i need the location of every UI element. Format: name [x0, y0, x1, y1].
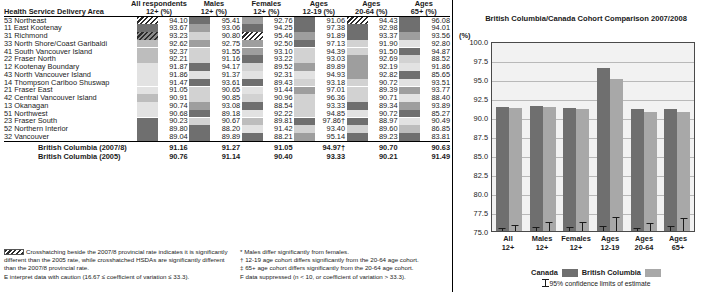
rate-swatch: [294, 24, 315, 32]
rate-swatch: [242, 24, 263, 32]
rate-swatch: [242, 118, 263, 126]
x-axis-label-4: Ages20-64: [627, 234, 661, 253]
total-row-label: British Columbia (2007/8): [4, 141, 130, 151]
table-cell: 88.21: [240, 133, 292, 141]
x-axis-label-line1: Males: [525, 234, 559, 243]
total-cell: 91.49: [398, 152, 451, 161]
table-header-row: Health Service Delivery Area All respond…: [4, 0, 450, 16]
confidence-interval-bar: [499, 228, 506, 232]
rate-swatch: [242, 125, 263, 133]
rate-swatch: [399, 125, 420, 133]
x-axis-label-5: Ages65+: [661, 234, 695, 253]
bar-canada: [530, 106, 543, 231]
y-axis-tick-label: 82.5: [458, 171, 488, 180]
footnote-e-note: E interpret data with caution (16.67 ≤ c…: [4, 273, 232, 281]
y-axis-tick-label: 95.0: [458, 76, 488, 85]
rate-swatch: [347, 94, 368, 102]
confidence-interval-bar: [680, 218, 687, 232]
bar-british-columbia: [576, 109, 589, 231]
footnotes-right: * Males differ significantly from female…: [240, 248, 448, 281]
rate-swatch: [399, 87, 420, 95]
column-header-females: Females 12+ (%): [240, 0, 292, 16]
column-header-ages-20-64-line2: 20-64 (%): [345, 8, 397, 16]
rate-swatch: [294, 55, 315, 63]
rate-swatch: [189, 94, 210, 102]
rate-swatch: [399, 24, 420, 32]
x-axis-label-3: Ages12-19: [593, 234, 627, 253]
confidence-interval-bar: [600, 226, 607, 232]
y-axis-tick-label: 80.0: [458, 190, 488, 199]
rate-swatch: [137, 55, 158, 63]
total-cell: 90.76: [130, 152, 187, 161]
rate-swatch: [399, 48, 420, 56]
rate-swatch: [137, 133, 158, 141]
bar-group: [660, 43, 694, 231]
y-axis-tick-label: 77.5: [458, 209, 488, 218]
rate-swatch: [294, 118, 315, 126]
bars-container: [492, 43, 694, 231]
bar-group: [627, 43, 661, 231]
rate-swatch: [137, 110, 158, 118]
y-axis-tick-label: 87.5: [458, 133, 488, 142]
column-header-area: Health Service Delivery Area: [4, 0, 130, 16]
rate-swatch: [189, 71, 210, 79]
bar-group: [593, 43, 627, 231]
rate-swatch: [399, 55, 420, 63]
total-cell: 91.14: [188, 152, 240, 161]
table-cell: 89.04: [130, 133, 187, 141]
rate-swatch: [242, 133, 263, 141]
total-value: 90.70: [371, 144, 398, 152]
y-axis-tick-label: 75.0: [458, 228, 488, 237]
rate-value: 89.04: [161, 133, 188, 141]
rate-swatch: [189, 87, 210, 95]
table-body: 53 Northeast94.1095.4192.7691.0694.4396.…: [4, 16, 450, 161]
table-total-row: British Columbia (2005)90.7691.1490.4093…: [4, 152, 450, 161]
total-cell: 94.97†: [293, 141, 345, 151]
footnote-suppressed: F data suppressed (n < 10, or coefficien…: [240, 273, 448, 281]
rate-swatch: [294, 133, 315, 141]
confidence-interval-bar: [634, 228, 641, 232]
rate-swatch: [189, 40, 210, 48]
x-axis-label-line2: 20-64: [627, 243, 661, 252]
rate-swatch: [294, 40, 315, 48]
total-value: 91.05: [266, 144, 293, 152]
y-axis-tick-label: 97.5: [458, 57, 488, 66]
rate-swatch: [242, 71, 263, 79]
legend-label-bc: British Columbia: [582, 268, 641, 277]
total-cell: 93.33: [293, 152, 345, 161]
table-cell: 89.89: [188, 133, 240, 141]
chart-legend: Canada British Columbia 95% confidence l…: [491, 268, 701, 287]
legend-label-canada: Canada: [531, 268, 558, 277]
x-axis-label-line1: Ages: [593, 234, 627, 243]
rate-swatch: [242, 94, 263, 102]
column-header-ages-20-64: Ages 20-64 (%): [345, 0, 397, 16]
rate-swatch: [189, 110, 210, 118]
rate-swatch: [294, 17, 315, 25]
rate-swatch: [347, 125, 368, 133]
legend-swatch-canada: [562, 269, 578, 277]
bar-british-columbia: [677, 112, 690, 231]
total-value: 90.40: [266, 153, 293, 161]
y-axis-tick-label: 90.0: [458, 114, 488, 123]
total-value: 91.27: [213, 144, 240, 152]
rate-swatch: [294, 63, 315, 71]
row-area-label: 32 Vancouver: [4, 133, 130, 141]
confidence-interval-bar: [546, 222, 553, 232]
bar-canada: [664, 109, 677, 231]
rate-swatch: [347, 55, 368, 63]
rate-swatch: [137, 118, 158, 126]
rate-swatch: [294, 79, 315, 87]
cohort-comparison-chart: British Columbia/Canada Cohort Compariso…: [452, 0, 706, 292]
footnote-crosshatch: Crosshatching beside the 2007/8 provinci…: [4, 248, 232, 273]
legend-ci-note: 95% confidence limits of estimate: [550, 280, 651, 287]
rate-swatch: [189, 133, 210, 141]
rate-swatch: [399, 17, 420, 25]
rate-swatch: [137, 48, 158, 56]
chart-subtitle: 2007/2008: [651, 14, 687, 23]
confidence-interval-bar: [647, 223, 654, 232]
rate-swatch: [399, 32, 420, 40]
x-axis-label-line1: Females: [559, 234, 593, 243]
total-cell: 91.27: [188, 141, 240, 151]
rate-swatch: [189, 79, 210, 87]
screenshot-root: Health Service Delivery Area All respond…: [0, 0, 706, 292]
